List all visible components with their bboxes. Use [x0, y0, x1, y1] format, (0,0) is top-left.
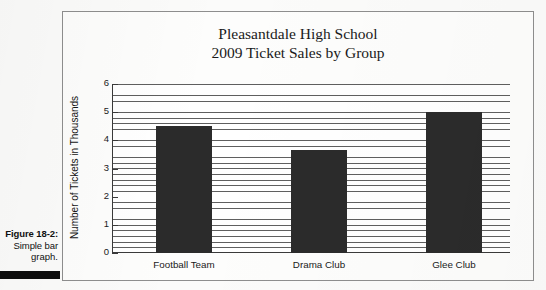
y-axis-tick-mark — [112, 225, 118, 226]
y-axis-tick-mark — [112, 140, 118, 141]
y-axis-tick-label: 2 — [104, 190, 109, 201]
y-axis-tick: 0 — [92, 253, 118, 254]
y-axis-tick: 5 — [92, 112, 118, 113]
x-axis-label-football-team: Football Team — [124, 259, 244, 270]
y-axis-tick-mark — [112, 84, 118, 85]
y-axis-tick: 2 — [92, 197, 118, 198]
y-axis-tick-mark — [112, 112, 118, 113]
figure-frame: Pleasantdale High School 2009 Ticket Sal… — [62, 11, 534, 281]
figure-caption-line-2: graph. — [0, 251, 58, 263]
figure-caption-number: Figure 18-2: — [0, 228, 58, 240]
y-axis-tick-mark — [112, 197, 118, 198]
y-axis-tick: 4 — [92, 140, 118, 141]
y-axis-tick-label: 1 — [104, 218, 109, 229]
bar-football-team — [156, 126, 212, 253]
bar-drama-club — [291, 150, 347, 253]
y-axis-tick-label: 4 — [104, 133, 109, 144]
figure-caption-line-1: Simple bar — [0, 240, 58, 252]
caption-rule-bar — [0, 271, 60, 279]
chart-title-line-1: Pleasantdale High School — [63, 24, 533, 43]
y-axis-tick-mark — [112, 253, 118, 254]
figure-caption: Figure 18-2: Simple bar graph. — [0, 228, 58, 263]
y-axis-title: Number of Tickets in Thousands — [69, 77, 80, 257]
y-axis-tick-mark — [112, 169, 118, 170]
chart-title: Pleasantdale High School 2009 Ticket Sal… — [63, 24, 533, 62]
y-axis-tick: 6 — [92, 84, 118, 85]
plot-area: 6 5 4 3 2 1 0 Number of Tickets in Thous… — [112, 84, 510, 253]
x-axis-label-drama-club: Drama Club — [259, 259, 379, 270]
x-axis-label-glee-club: Glee Club — [394, 259, 514, 270]
chart-title-line-2: 2009 Ticket Sales by Group — [63, 43, 533, 62]
y-axis-tick: 1 — [92, 225, 118, 226]
bar-glee-club — [426, 112, 482, 253]
y-axis-tick: 3 — [92, 169, 118, 170]
y-axis-tick-label: 6 — [104, 77, 109, 88]
y-axis-tick-label: 3 — [104, 162, 109, 173]
y-axis-tick-label: 5 — [104, 105, 109, 116]
y-axis-tick-label: 0 — [104, 246, 109, 257]
